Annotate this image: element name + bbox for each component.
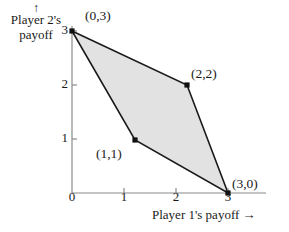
vertex-label-0-3: (0,3) <box>85 8 111 23</box>
data-point-1-1 <box>132 137 137 142</box>
y-tick-label-3: 3 <box>48 23 68 38</box>
feasible-payoff-region <box>72 31 228 193</box>
vertex-label-1-1: (1,1) <box>96 146 122 161</box>
x-axis-title: Player 1's payoff → <box>152 208 256 223</box>
x-tick-label-2: 2 <box>166 190 186 205</box>
vertex-label-3-0: (3,0) <box>232 176 258 191</box>
y-tick-label-1: 1 <box>48 131 68 146</box>
y-tick-label-2: 2 <box>48 77 68 92</box>
x-tick-label-3: 3 <box>218 190 238 205</box>
x-tick-label-1: 1 <box>114 190 134 205</box>
vertex-label-2-2: (2,2) <box>191 66 217 81</box>
x-tick-label-0: 0 <box>62 190 82 205</box>
payoff-region-figure: ↑ Player 2'spayoff Player 1's payoff → 0… <box>0 0 289 232</box>
data-point-2-2 <box>184 82 189 87</box>
